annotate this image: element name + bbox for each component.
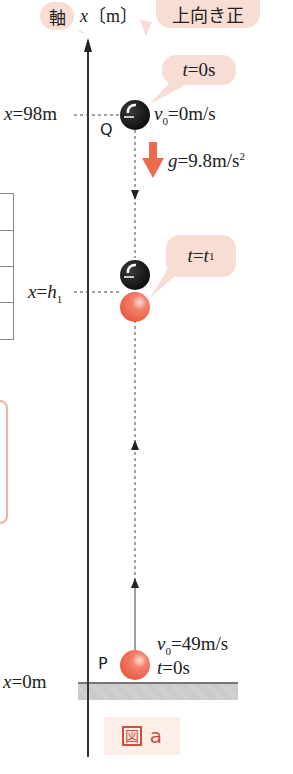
axis-bubble-pointer [76,28,86,34]
q-initial-velocity: v0=0m/s [154,104,216,131]
figure-letter: a [150,724,162,748]
x-axis-lower [87,682,89,757]
axis-kanji: 軸 [49,4,66,29]
rise-arrow-upper [131,440,139,450]
meeting-time-bubble: t=t1 [166,235,236,277]
figure-kanji: 図 [122,726,142,746]
gravity-arrow-icon [142,142,164,178]
direction-note: 上向き正 [172,1,244,27]
label-p: P [98,654,108,674]
p-initial-time: t=0s [157,658,190,678]
ball-q-at-t1 [120,260,150,290]
label-x-98m: x=98m [4,104,57,124]
label-x-0m: x=0m [3,672,46,692]
ball-q-initial [120,100,150,130]
gravity-label: g=9.8m/s2 [168,146,245,171]
direction-bubble-pointer [140,20,152,36]
ground [78,682,238,700]
label-q: Q [100,120,113,140]
figure-caption: 図 a [104,717,180,755]
fall-path-arrow [131,190,139,200]
axis-label: x〔m〕 [80,6,138,26]
axis-kanji-bubble: 軸 [40,2,74,30]
label-x-h1: x=h1 [28,282,62,309]
ball-p-at-t1 [120,292,150,322]
ball-p-initial [120,650,150,680]
direction-bubble: 上向き正 [156,0,260,28]
x-axis [84,38,92,757]
q-time-bubble: t=0s [162,55,236,85]
rise-arrow-lower [131,578,139,588]
